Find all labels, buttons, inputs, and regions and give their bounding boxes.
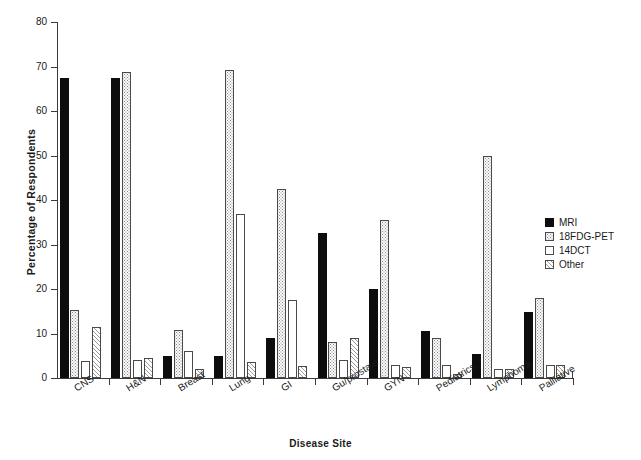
x-tick-mark xyxy=(521,378,522,385)
bar-gi-14dct xyxy=(288,300,297,378)
x-tick-mark xyxy=(470,378,471,385)
x-axis-title: Disease Site xyxy=(0,438,641,449)
bar-h-n-18fdg-pet xyxy=(122,72,131,378)
bar-lung-14dct xyxy=(236,214,245,378)
bar-cns-other xyxy=(92,327,101,378)
bar-lung-mri xyxy=(214,356,223,378)
legend-swatch-icon xyxy=(545,218,554,227)
legend-label: 18FDG-PET xyxy=(559,231,614,242)
bar-gyn-18fdg-pet xyxy=(380,220,389,378)
y-tick-mark xyxy=(51,289,57,290)
y-tick-mark xyxy=(51,334,57,335)
bar-breast-mri xyxy=(163,356,172,378)
bar-chart-figure: Percentage of Respondents 01020304050607… xyxy=(0,0,641,460)
legend-label: MRI xyxy=(559,217,577,228)
y-tick-mark xyxy=(51,200,57,201)
legend-swatch-icon xyxy=(545,232,554,241)
y-axis-line xyxy=(57,22,58,378)
bar-h-n-mri xyxy=(111,78,120,378)
y-tick-label: 20 xyxy=(15,284,47,294)
bar-cns-18fdg-pet xyxy=(70,310,79,378)
bar-gu-prostate-mri xyxy=(318,233,327,378)
bar-gi-18fdg-pet xyxy=(277,189,286,378)
legend-item-18fdg-pet: 18FDG-PET xyxy=(545,230,640,243)
y-tick-mark xyxy=(51,156,57,157)
y-tick-mark xyxy=(51,378,57,379)
y-tick-mark xyxy=(51,67,57,68)
x-tick-mark xyxy=(212,378,213,385)
y-tick-label: 60 xyxy=(15,106,47,116)
x-tick-mark xyxy=(109,378,110,385)
y-tick-label: 30 xyxy=(15,240,47,250)
bar-gi-mri xyxy=(266,338,275,378)
y-tick-mark xyxy=(51,245,57,246)
x-tick-mark xyxy=(367,378,368,385)
bar-gu-prostate-18fdg-pet xyxy=(328,342,337,378)
x-tick-mark xyxy=(573,378,574,385)
y-tick-label: 80 xyxy=(15,17,47,27)
legend-label: 14DCT xyxy=(559,245,591,256)
bar-pediatrics-mri xyxy=(421,331,430,378)
legend-label: Other xyxy=(559,259,584,270)
y-tick-mark xyxy=(51,111,57,112)
x-tick-mark xyxy=(263,378,264,385)
legend-item-mri: MRI xyxy=(545,216,640,229)
legend-swatch-icon xyxy=(545,260,554,269)
bar-pediatrics-18fdg-pet xyxy=(432,338,441,378)
bar-palliative-18fdg-pet xyxy=(535,298,544,378)
y-tick-label: 40 xyxy=(15,195,47,205)
bar-breast-18fdg-pet xyxy=(174,330,183,378)
legend-swatch-icon xyxy=(545,246,554,255)
legend-item-14dct: 14DCT xyxy=(545,244,640,257)
legend-item-other: Other xyxy=(545,258,640,271)
chart-legend: MRI18FDG-PET14DCTOther xyxy=(545,216,640,272)
bar-gi-other xyxy=(298,366,307,378)
bar-lymphoma-18fdg-pet xyxy=(483,156,492,379)
bar-h-n-other xyxy=(144,358,153,378)
x-tick-mark xyxy=(160,378,161,385)
x-tick-mark xyxy=(418,378,419,385)
y-tick-mark xyxy=(51,22,57,23)
bar-cns-mri xyxy=(60,78,69,378)
x-tick-mark xyxy=(315,378,316,385)
y-tick-label: 50 xyxy=(15,151,47,161)
category-label-gi: GI xyxy=(279,378,294,393)
y-tick-label: 10 xyxy=(15,329,47,339)
y-tick-label: 0 xyxy=(15,373,47,383)
plot-area: 01020304050607080 xyxy=(57,22,573,378)
bar-lung-18fdg-pet xyxy=(225,70,234,378)
y-tick-label: 70 xyxy=(15,62,47,72)
